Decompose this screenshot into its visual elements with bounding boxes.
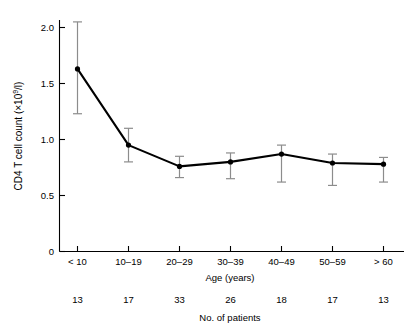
- patient-count-3: 26: [225, 294, 236, 305]
- patient-count-0: 13: [72, 294, 83, 305]
- x-category-label-4: 40–49: [268, 256, 294, 267]
- patient-count-1: 17: [123, 294, 134, 305]
- x-axis-ticks: [78, 246, 384, 252]
- chart-figure: 0 0.5 1.0 1.5 2.0 CD4 T cell count (×109…: [0, 0, 415, 332]
- y-tick-label-0: 0: [49, 246, 54, 257]
- error-bar-3: [226, 153, 235, 179]
- x-axis-category-labels: < 10 10–19 20–29 30–39 40–49 50–59 > 60: [68, 256, 393, 267]
- y-tick-label-2-0: 2.0: [41, 22, 54, 33]
- patient-count-5: 17: [327, 294, 338, 305]
- data-point-0: [75, 66, 80, 71]
- cd4-count-by-age-line-chart: 0 0.5 1.0 1.5 2.0 CD4 T cell count (×109…: [0, 0, 415, 332]
- y-axis-title: CD4 T cell count (×109/l): [12, 82, 24, 191]
- patient-counts-caption: No. of patients: [199, 312, 261, 323]
- series-line: [78, 69, 384, 166]
- x-category-label-2: 20–29: [166, 256, 192, 267]
- error-bar-5: [328, 154, 337, 185]
- x-category-label-1: 10–19: [115, 256, 141, 267]
- patient-count-6: 13: [378, 294, 389, 305]
- error-bar-4: [277, 145, 286, 182]
- y-tick-label-1-0: 1.0: [41, 134, 54, 145]
- patient-counts-row: 13 17 33 26 18 17 13: [72, 294, 389, 305]
- x-category-label-3: 30–39: [217, 256, 243, 267]
- x-axis-title: Age (years): [205, 272, 254, 283]
- y-tick-label-1-5: 1.5: [41, 78, 54, 89]
- y-axis-title-main: CD4 T cell count (×10: [13, 93, 24, 190]
- x-category-label-6: > 60: [374, 256, 393, 267]
- x-category-label-0: < 10: [68, 256, 87, 267]
- data-point-2: [177, 164, 182, 169]
- y-axis-ticks: [60, 28, 66, 252]
- svg-text:CD4 T cell count (×109/l): CD4 T cell count (×109/l): [12, 82, 24, 191]
- x-category-label-5: 50–59: [319, 256, 345, 267]
- patient-count-2: 33: [174, 294, 185, 305]
- y-tick-label-0-5: 0.5: [41, 190, 54, 201]
- patient-count-4: 18: [276, 294, 287, 305]
- data-point-3: [228, 159, 233, 164]
- data-point-6: [381, 162, 386, 167]
- y-axis-title-tail: /l): [13, 82, 24, 90]
- data-point-4: [279, 151, 284, 156]
- y-axis-tick-labels: 0 0.5 1.0 1.5 2.0: [41, 22, 54, 257]
- data-series-layer: [73, 22, 388, 186]
- data-point-5: [330, 160, 335, 165]
- data-point-1: [126, 143, 131, 148]
- error-bar-6: [379, 157, 388, 182]
